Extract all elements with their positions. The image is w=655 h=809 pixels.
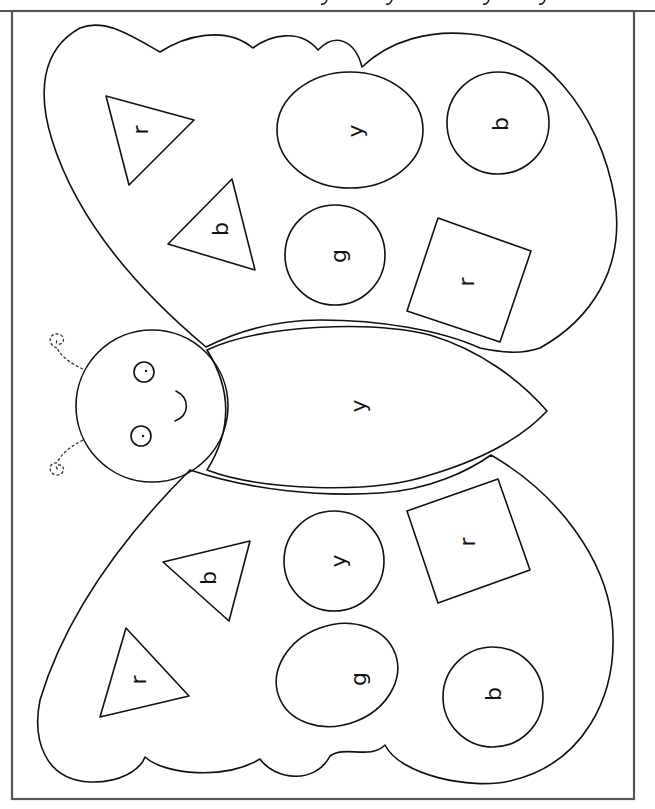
pupil [145, 370, 147, 372]
letter-label: r [455, 537, 480, 547]
smile [175, 391, 186, 421]
eye-right [131, 426, 151, 446]
header-text-fragment [321, 0, 545, 4]
antenna-top [57, 348, 83, 369]
letter-label: y [343, 124, 368, 137]
antenna-bottom [57, 440, 83, 463]
letter-label: r [126, 675, 151, 685]
letter-label: b [481, 687, 506, 701]
letter-label: b [208, 222, 233, 236]
butterfly-head [76, 330, 228, 482]
butterfly-drawing: r b y b g r b r y g r b y [0, 0, 655, 809]
letter-label: r [454, 277, 479, 287]
letter-label: b [488, 117, 513, 131]
coloring-page: r b y b g r b r y g r b y [0, 0, 655, 809]
letter-label: y [346, 399, 371, 412]
lower-triangle-r [100, 628, 189, 717]
letter-label: y [326, 554, 351, 567]
letter-label: g [326, 249, 351, 263]
letter-label: g [346, 672, 371, 686]
pupil [142, 435, 144, 437]
antenna-swirl-top [50, 334, 63, 348]
letter-label: b [196, 571, 221, 585]
eye-left [134, 362, 154, 382]
antenna-swirl-bottom [50, 463, 63, 475]
letter-label: r [128, 125, 153, 135]
upper-triangle-r [106, 96, 194, 185]
lower-oval-g [262, 607, 413, 743]
